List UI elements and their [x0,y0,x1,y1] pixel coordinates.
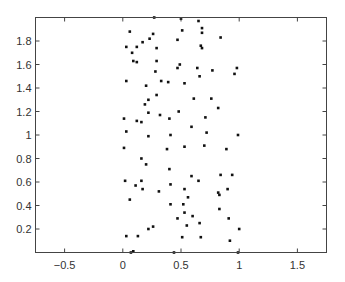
data-point [203,144,206,147]
data-point [181,236,184,239]
x-tick-label: 0.5 [173,259,188,271]
data-point [124,180,127,183]
x-tick-label: 1 [236,259,242,271]
data-point [154,70,157,73]
y-tick-label: 1 [25,129,31,141]
data-point [169,203,172,206]
data-point [168,168,171,171]
data-point [217,191,220,194]
data-point [160,80,163,83]
y-tick-label: 0.2 [16,223,31,235]
data-point [219,36,222,39]
data-point [129,30,132,33]
data-point [197,20,200,23]
data-point [205,131,208,134]
data-point [193,97,196,100]
data-point [140,157,143,160]
y-tick-label: 1.4 [16,82,31,94]
y-tick-label: 0.8 [16,153,31,165]
data-point [125,46,128,49]
data-point [229,239,232,242]
data-point [186,224,189,227]
data-point [125,80,128,83]
data-point [176,39,179,42]
data-point [183,145,186,148]
data-point [131,52,134,55]
data-point [145,163,148,166]
data-point [140,121,143,124]
data-point [191,215,194,218]
data-point [183,188,186,191]
data-point [147,228,150,231]
data-point [141,41,144,44]
y-tick-label: 1.2 [16,106,31,118]
y-tick-label: 1.8 [16,35,31,47]
data-point [147,111,150,114]
data-point [137,235,140,238]
data-point [168,117,171,120]
data-point [236,67,239,70]
plot-frame [36,18,327,253]
data-point [182,203,185,206]
data-point [176,217,179,220]
data-point [201,47,204,50]
data-point [158,190,161,193]
data-point [190,126,193,129]
data-point [218,194,221,197]
data-point [187,196,190,199]
data-point [132,60,135,63]
data-point [144,103,147,106]
data-point [225,148,228,151]
data-point [155,94,158,97]
data-point [159,114,162,117]
data-point [123,147,126,150]
data-point [183,82,186,85]
data-point [201,32,204,35]
data-point [198,222,201,225]
x-tick-label: 1.5 [290,259,305,271]
x-tick-label: 0 [120,259,126,271]
data-point [226,188,229,191]
data-point [196,67,199,70]
data-point [123,117,126,120]
data-point [134,184,137,187]
data-point [169,134,172,137]
data-point [136,46,139,49]
data-point [136,61,139,64]
data-point [155,60,158,63]
data-point [198,75,201,78]
data-point [136,120,139,123]
y-tick-label: 1.6 [16,59,31,71]
data-point [167,81,170,84]
y-tick-label: 0.4 [16,200,31,212]
data-point [201,27,204,30]
data-point [217,107,220,110]
data-point [181,29,184,32]
data-point [183,211,186,214]
data-point [147,135,150,138]
data-point [231,174,234,177]
data-point [148,37,151,40]
data-point [210,97,213,100]
data-point [179,63,182,66]
x-axis: −0.500.511.5 [54,18,305,271]
points-layer [123,16,241,254]
data-point [125,130,128,133]
data-point [211,69,214,72]
data-point [129,198,132,201]
data-point [237,134,240,137]
data-point [155,47,158,50]
data-point [152,225,155,228]
data-point [218,208,221,211]
data-point [204,116,207,119]
x-tick-label: −0.5 [54,259,76,271]
data-point [227,217,230,220]
data-point [197,180,200,183]
data-point [190,175,193,178]
data-point [152,33,155,36]
data-point [219,174,222,177]
data-point [145,84,148,87]
data-point [147,99,150,102]
data-point [140,180,143,183]
data-point [200,44,203,47]
